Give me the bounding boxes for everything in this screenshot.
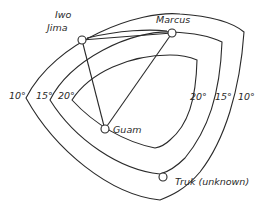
contour-10	[26, 14, 244, 200]
label-jima: Jima	[45, 22, 68, 33]
site-guam-marker	[101, 125, 109, 133]
link-marcus-guam	[107, 36, 170, 126]
label-20-right: 20°	[190, 91, 207, 102]
site-marcus-marker	[168, 29, 176, 37]
isoline-diagram: Iwo Jima Marcus Guam Truk (unknown) 10° …	[0, 0, 267, 206]
label-iwo: Iwo	[55, 9, 72, 20]
label-marcus: Marcus	[156, 14, 190, 25]
site-truk-marker	[159, 173, 167, 181]
label-10-left: 10°	[9, 90, 26, 101]
contour-15	[50, 32, 222, 174]
label-10-right: 10°	[238, 91, 255, 102]
label-guam: Guam	[113, 124, 141, 135]
label-15-left: 15°	[36, 90, 53, 101]
label-20-left: 20°	[58, 90, 75, 101]
label-truk: Truk (unknown)	[175, 176, 249, 187]
label-15-right: 15°	[215, 91, 232, 102]
site-iwojima-marker	[78, 36, 86, 44]
